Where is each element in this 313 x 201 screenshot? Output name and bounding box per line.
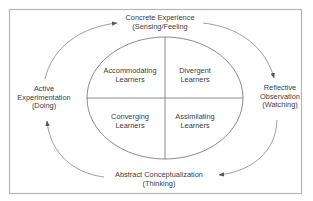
quadrant-assimilating: Assimilating Learners [175, 113, 214, 130]
quadrant-tl-line2: Learners [104, 76, 157, 85]
quadrant-tr-line2: Learners [179, 76, 211, 85]
arrow-thinking-to-doing [47, 121, 104, 177]
quadrant-accommodating: Accommodating Learners [104, 67, 157, 84]
quadrant-br-line2: Learners [175, 122, 214, 131]
stage-left-line3: (Doing) [17, 102, 70, 111]
stage-reflective-observation: Reflective Observation (Watching) [260, 84, 300, 110]
learning-cycle-diagram: Concrete Experience (Sensing/Feeling Ref… [0, 0, 313, 201]
arrow-watching-to-thinking [219, 120, 277, 175]
quadrant-divergent: Divergent Learners [179, 67, 211, 84]
stage-abstract-conceptualization: Abstract Conceptualization (Thinking) [115, 171, 203, 188]
quadrant-converging: Converging Learners [111, 113, 149, 130]
stage-bottom-line2: (Thinking) [115, 180, 203, 189]
stage-concrete-experience: Concrete Experience (Sensing/Feeling [125, 14, 194, 31]
stage-active-experimentation: Active Experimentation (Doing) [17, 85, 70, 111]
quadrant-bl-line2: Learners [111, 122, 149, 131]
stage-top-line2: (Sensing/Feeling [125, 23, 194, 32]
stage-right-line3: (Watching) [260, 101, 300, 110]
